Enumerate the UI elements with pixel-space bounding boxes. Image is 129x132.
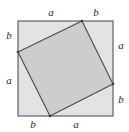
dimension-label-bottom-a: a <box>69 119 83 131</box>
vertex-bottom-marker <box>49 115 52 118</box>
vertex-right-marker <box>112 83 115 86</box>
figure-container: a b a b b a b a <box>0 0 129 132</box>
dimension-label-right-a: a <box>114 40 128 52</box>
vertex-top-marker <box>81 20 84 23</box>
vertex-left-marker <box>17 51 20 54</box>
dimension-label-right-b: b <box>114 94 128 106</box>
dimension-label-bottom-b: b <box>26 119 40 131</box>
dimension-label-top-b: b <box>89 7 103 19</box>
dimension-label-left-b: b <box>2 30 16 42</box>
dimension-label-top-a: a <box>44 7 58 19</box>
geometry-diagram <box>0 0 129 132</box>
dimension-label-left-a: a <box>2 75 16 87</box>
